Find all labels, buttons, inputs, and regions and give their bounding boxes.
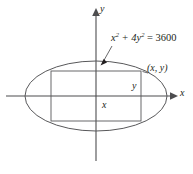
x-axis-arrowhead [170,92,178,100]
equation-leader-arrowhead [101,59,108,66]
x-axis-label: x [180,88,184,98]
height-segment-label: y [132,81,136,91]
y-axis-arrowhead [92,8,100,16]
equation-tail: = 3600 [144,32,176,43]
x-axis [6,92,178,100]
ellipse-rectangle-figure: x2 + 4y2 = 3600 (x, y) y x x y [0,0,193,174]
equation-leader [101,46,113,66]
equation-label: x2 + 4y2 = 3600 [111,33,177,44]
y-axis-label: y [100,4,104,14]
equation-middle: + 4y [119,32,141,43]
width-segment-label: x [102,100,106,110]
y-axis [92,8,100,161]
figure-canvas [0,0,193,174]
point-label: (x, y) [147,63,168,73]
